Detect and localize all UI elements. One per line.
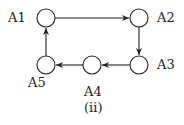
node-label-a3: A3: [157, 58, 175, 71]
node-a3: [130, 56, 148, 74]
node-label-a1: A1: [8, 11, 26, 24]
node-label-a2: A2: [157, 11, 175, 24]
figure-caption: (ii): [84, 101, 102, 114]
node-a2: [130, 9, 148, 27]
graph-diagram: A1 A2 A3 A4 A5 (ii): [0, 0, 184, 125]
node-a5: [37, 56, 55, 74]
node-a4: [83, 56, 101, 74]
node-label-a5: A5: [28, 76, 46, 89]
node-a1: [37, 9, 55, 27]
node-label-a4: A4: [84, 85, 102, 98]
